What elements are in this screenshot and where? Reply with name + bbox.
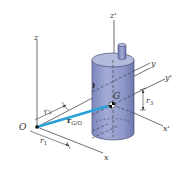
r2-label: r2 — [42, 105, 53, 117]
r2-dimension — [35, 102, 68, 120]
y-prime-axis — [134, 79, 165, 94]
origin-label: O — [19, 122, 27, 132]
origin-point — [35, 125, 39, 129]
center-of-mass-marker — [109, 102, 115, 108]
z-axis-label: z — [33, 33, 39, 42]
center-label: G — [113, 91, 120, 101]
z-prime-axis-label: z' — [109, 11, 116, 20]
center-of-mass-diagram: z z' x y y' x' O G r3 r2 r1 rG/O — [0, 0, 186, 172]
x-prime-axis — [134, 113, 163, 126]
cylinder-cap — [118, 43, 126, 59]
r1-dimension — [30, 131, 70, 149]
y-axis-label: y — [150, 59, 156, 68]
x-prime-axis-label: x' — [163, 124, 170, 133]
x-axis-label: x — [104, 153, 109, 162]
r3-label: r3 — [146, 96, 154, 106]
y-prime-axis-label: y' — [164, 73, 172, 82]
